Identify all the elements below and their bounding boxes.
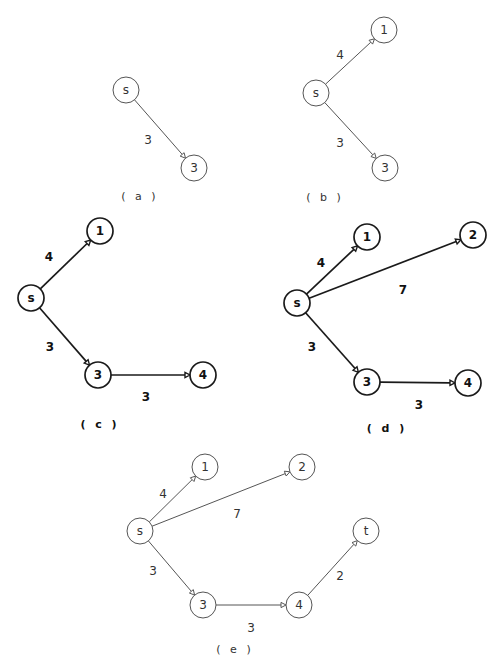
edge-weight-label: 3 <box>149 564 157 578</box>
node-3: 3 <box>372 155 398 181</box>
edge-4-to-t: 2 <box>308 541 358 596</box>
edge-s-to-3: 3 <box>135 100 186 158</box>
edge-weight-label: 4 <box>159 487 167 501</box>
node-1: 1 <box>192 454 218 480</box>
edge-weight-label: 3 <box>247 621 255 635</box>
node-4: 4 <box>190 362 216 388</box>
node-1: 1 <box>354 224 380 250</box>
node-s: s <box>284 290 310 316</box>
node-1: 1 <box>371 17 397 43</box>
edge-weight-label: 3 <box>415 398 423 412</box>
node-label: 3 <box>190 161 198 175</box>
node-1: 1 <box>87 218 113 244</box>
edge-line <box>325 103 373 155</box>
edge-weight-label: 7 <box>233 507 241 521</box>
arrowhead-icon <box>284 471 290 476</box>
panel-b: 43s13( b ) <box>303 17 398 204</box>
edge-s-to-1: 4 <box>40 240 90 289</box>
edge-line <box>149 480 192 522</box>
node-label: 1 <box>201 460 209 474</box>
node-label: 1 <box>96 224 104 238</box>
edge-weight-label: 4 <box>45 250 53 264</box>
edge-s-to-3: 3 <box>325 103 376 159</box>
node-label: 3 <box>381 161 389 175</box>
panel-a: 3s3( a ) <box>113 77 207 203</box>
node-label: 3 <box>94 368 102 382</box>
edge-s-to-1: 4 <box>149 476 195 522</box>
panel-caption: ( e ) <box>216 643 253 656</box>
node-s: s <box>18 285 44 311</box>
edge-s-to-3: 3 <box>40 308 90 365</box>
node-3: 3 <box>354 369 380 395</box>
node-t: t <box>353 518 379 544</box>
node-3: 3 <box>181 155 207 181</box>
edge-3-to-4: 3 <box>380 380 455 412</box>
node-2: 2 <box>460 222 486 248</box>
node-2: 2 <box>289 454 315 480</box>
node-label: s <box>293 296 300 310</box>
panel-caption: ( b ) <box>306 191 344 204</box>
panel-caption: ( d ) <box>367 422 408 435</box>
node-4: 4 <box>286 592 312 618</box>
node-label: 4 <box>199 368 207 382</box>
panel-caption: ( a ) <box>121 190 158 203</box>
node-s: s <box>303 80 329 106</box>
edge-weight-label: 2 <box>336 569 344 583</box>
node-label: 3 <box>199 598 207 612</box>
node-label: s <box>137 524 143 538</box>
panel-caption: ( c ) <box>80 418 119 431</box>
node-label: 4 <box>464 376 472 390</box>
shortest-path-figure: 3s3( a )43s13( b )433s134( c )4733s1234(… <box>0 0 502 663</box>
node-label: s <box>123 83 129 97</box>
edge-weight-label: 3 <box>144 133 152 147</box>
node-3: 3 <box>85 362 111 388</box>
node-label: t <box>364 524 369 538</box>
edge-s-to-2: 7 <box>309 239 461 298</box>
panel-e: 47332s1234t( e ) <box>127 454 379 656</box>
edge-s-to-1: 4 <box>326 39 375 84</box>
node-s: s <box>113 77 139 103</box>
node-label: 2 <box>298 460 306 474</box>
node-label: 1 <box>380 23 388 37</box>
panel-d: 4733s1234( d ) <box>284 222 486 435</box>
node-label: 2 <box>469 228 477 242</box>
edge-s-to-3: 3 <box>148 541 194 595</box>
edge-weight-label: 4 <box>336 48 344 62</box>
edge-s-to-3: 3 <box>306 313 359 373</box>
node-label: 3 <box>363 375 371 389</box>
edge-weight-label: 4 <box>317 256 325 270</box>
edge-weight-label: 3 <box>46 340 54 354</box>
edge-3-to-4: 3 <box>111 372 190 404</box>
node-3: 3 <box>190 592 216 618</box>
node-label: s <box>27 291 34 305</box>
edge-weight-label: 7 <box>399 283 407 297</box>
edge-weight-label: 3 <box>336 136 344 150</box>
edge-s-to-1: 4 <box>307 246 358 294</box>
edge-3-to-4: 3 <box>216 602 286 635</box>
node-4: 4 <box>455 370 481 396</box>
edge-line <box>135 100 183 155</box>
edge-line <box>307 249 354 294</box>
edge-line <box>326 42 371 84</box>
panel-c: 433s134( c ) <box>18 218 216 431</box>
node-s: s <box>127 518 153 544</box>
node-label: 1 <box>363 230 371 244</box>
edge-weight-label: 3 <box>142 390 150 404</box>
node-label: 4 <box>295 598 303 612</box>
node-label: s <box>313 86 319 100</box>
edge-weight-label: 3 <box>308 340 316 354</box>
arrowhead-icon <box>281 602 286 607</box>
edge-line <box>308 544 354 595</box>
edge-line <box>380 382 450 383</box>
